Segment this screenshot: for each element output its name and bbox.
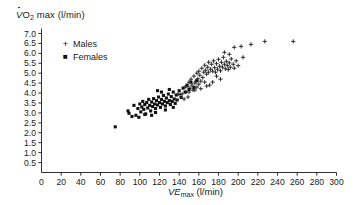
x-tick-label: 40 [76, 177, 86, 187]
data-point-female [136, 107, 139, 110]
data-point-female [141, 100, 144, 103]
x-tick-label: 0 [39, 177, 44, 187]
data-point-male [197, 82, 201, 86]
x-tick-label: 60 [96, 177, 106, 187]
y-tick-label: 3.5 [24, 98, 36, 108]
x-tick-label: 160 [192, 177, 207, 187]
data-point-male [192, 74, 196, 78]
data-point-male [218, 77, 222, 81]
data-point-male [210, 62, 214, 66]
data-point-female [145, 101, 148, 104]
data-point-male [239, 44, 243, 48]
data-point-male [213, 70, 217, 74]
data-point-female [158, 101, 161, 104]
axis-spines [42, 29, 337, 173]
data-point-female [165, 96, 168, 99]
data-point-male [291, 39, 295, 43]
data-point-male [229, 57, 233, 61]
data-point-male [236, 64, 240, 68]
data-point-female [143, 113, 146, 116]
scatter-plot-canvas: 0.51.01.52.02.53.03.54.04.55.05.56.06.57… [0, 0, 357, 205]
data-point-female [114, 125, 117, 128]
data-point-male [203, 63, 207, 67]
data-point-male [217, 64, 221, 68]
data-point-female [155, 99, 158, 102]
data-point-male [197, 69, 201, 73]
data-point-female [132, 104, 135, 107]
data-point-male [214, 74, 218, 78]
data-point-male [263, 39, 267, 43]
data-point-female [173, 97, 176, 100]
data-point-female [167, 92, 170, 95]
data-point-female [164, 104, 167, 107]
data-point-female [160, 98, 163, 101]
y-tick-label: 5.5 [24, 58, 36, 68]
data-point-male [222, 50, 226, 54]
data-point-female [154, 107, 157, 110]
data-point-female [127, 112, 130, 115]
x-tick-label: 220 [251, 177, 266, 187]
y-tick-label: 7.0 [24, 29, 36, 39]
data-point-male [249, 42, 253, 46]
data-point-female [162, 94, 165, 97]
x-tick-label: 20 [56, 177, 66, 187]
data-point-male [216, 57, 220, 61]
data-point-female [154, 111, 157, 114]
data-point-male [214, 62, 218, 66]
data-point-male [211, 69, 215, 73]
data-point-female [137, 116, 140, 119]
y-tick-label: 5.0 [24, 68, 36, 78]
x-tick-label: 120 [152, 177, 167, 187]
data-point-male [207, 60, 211, 64]
data-point-male [200, 66, 204, 70]
y-tick-label: 1.5 [24, 138, 36, 148]
data-point-female [164, 108, 167, 111]
data-point-female [142, 108, 145, 111]
x-tick-label: 80 [115, 177, 125, 187]
data-point-male [199, 87, 203, 91]
data-point-female [178, 89, 181, 92]
data-point-male [204, 68, 208, 72]
data-point-female [157, 95, 160, 98]
data-point-male [219, 60, 223, 64]
data-point-male [232, 66, 236, 70]
x-tick-label: 180 [211, 177, 226, 187]
chart-figure: VO2 max (l/min) VEmax (l/min) + Males ■ … [0, 0, 357, 205]
data-point-female [153, 102, 156, 105]
data-point-female [150, 114, 153, 117]
y-tick-label: 2.0 [24, 128, 36, 138]
data-point-female [170, 95, 173, 98]
data-point-female [172, 106, 175, 109]
y-tick-label: 6.0 [24, 48, 36, 58]
data-point-male [195, 71, 199, 75]
data-point-female [152, 97, 155, 100]
data-point-male [186, 95, 190, 99]
data-point-female [149, 109, 152, 112]
data-point-female [134, 114, 137, 117]
x-tick-label: 280 [310, 177, 325, 187]
y-tick-label: 4.5 [24, 78, 36, 88]
data-point-female [130, 115, 133, 118]
y-tick-label: 4.0 [24, 88, 36, 98]
data-point-male [232, 45, 236, 49]
data-point-female [156, 89, 159, 92]
x-tick-label: 200 [231, 177, 246, 187]
data-point-female [147, 98, 150, 101]
data-point-female [148, 104, 151, 107]
y-tick-label: 2.5 [24, 118, 36, 128]
data-point-male [207, 70, 211, 74]
data-point-female [172, 91, 175, 94]
data-point-male [199, 79, 203, 83]
data-point-female [160, 91, 163, 94]
data-point-female [169, 103, 172, 106]
x-tick-label: 300 [329, 177, 344, 187]
data-point-female [139, 110, 142, 113]
data-point-female [159, 106, 162, 109]
series-males [176, 39, 295, 101]
data-point-male [198, 73, 202, 77]
data-point-male [211, 59, 215, 63]
data-point-male [201, 75, 205, 79]
data-point-male [231, 62, 235, 66]
data-point-male [206, 65, 210, 69]
x-tick-label: 240 [270, 177, 285, 187]
